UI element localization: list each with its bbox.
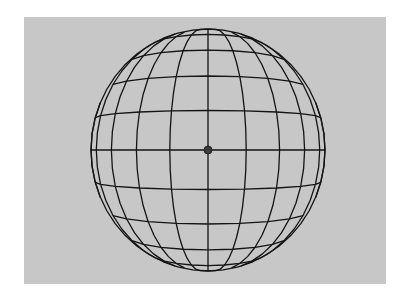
center-point-icon [204,146,212,154]
wireframe-sphere [0,0,409,305]
